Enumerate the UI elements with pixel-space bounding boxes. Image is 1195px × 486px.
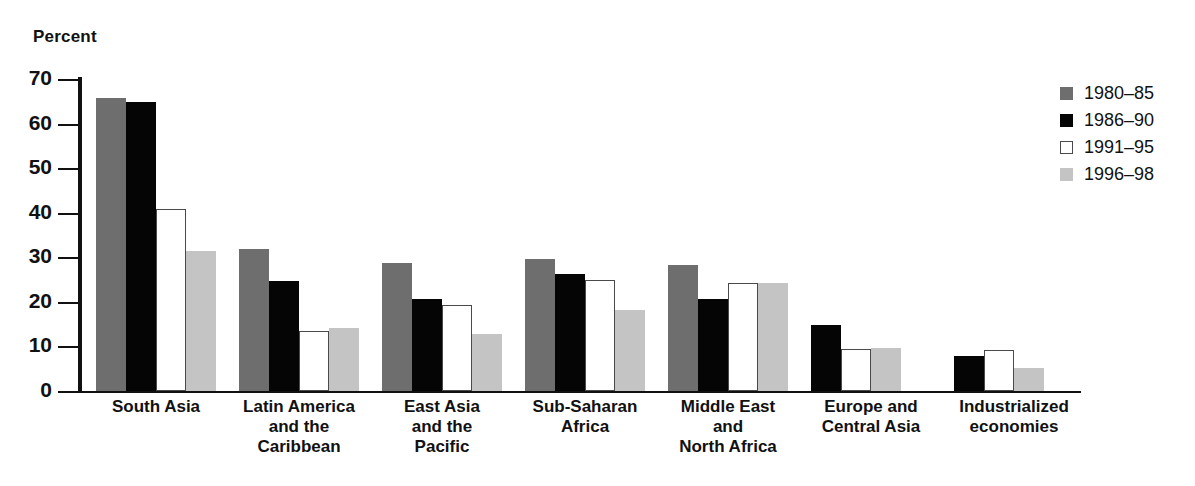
bar-group: Industrialized economies <box>954 79 1074 391</box>
bar-group-bars <box>239 79 359 391</box>
y-tick-label-70: 70 <box>6 66 52 90</box>
bar <box>442 305 472 391</box>
legend-label: 1986–90 <box>1084 110 1154 131</box>
bar <box>126 102 156 391</box>
bar-group-bars <box>382 79 502 391</box>
bar-group: East Asia and the Pacific <box>382 79 502 391</box>
bar-group: Europe and Central Asia <box>811 79 931 391</box>
chart-root: Percent 010203040506070 South AsiaLatin … <box>0 0 1195 486</box>
y-tick-10 <box>58 346 78 348</box>
bar-group-bars <box>811 79 931 391</box>
bar <box>1014 368 1044 391</box>
y-tick-20 <box>58 302 78 304</box>
bar <box>239 249 269 391</box>
bar <box>698 299 728 391</box>
legend-item: 1991–95 <box>1060 134 1154 161</box>
bar-group-bars <box>96 79 216 391</box>
bar <box>329 328 359 391</box>
bar <box>186 251 216 391</box>
bar-group: Sub-Saharan Africa <box>525 79 645 391</box>
bar-group-bars <box>525 79 645 391</box>
bar <box>96 98 126 391</box>
legend-swatch-icon <box>1060 168 1073 181</box>
bar <box>954 356 984 391</box>
legend-swatch-icon <box>1060 87 1073 100</box>
bar <box>728 283 758 391</box>
legend-label: 1996–98 <box>1084 164 1154 185</box>
bar <box>871 348 901 391</box>
legend-item: 1996–98 <box>1060 161 1154 188</box>
y-tick-label-10: 10 <box>6 333 52 357</box>
legend-swatch-icon <box>1060 141 1073 154</box>
bar <box>525 259 555 391</box>
y-tick-60 <box>58 124 78 126</box>
bar <box>668 265 698 391</box>
legend-label: 1991–95 <box>1084 137 1154 158</box>
y-tick-label-60: 60 <box>6 111 52 135</box>
bar <box>841 349 871 391</box>
chart-legend: 1980–851986–901991–951996–98 <box>1060 80 1154 188</box>
bar-group-bars <box>954 79 1074 391</box>
bar <box>585 280 615 391</box>
x-axis-group-label: Industrialized economies <box>899 397 1129 437</box>
bar <box>615 310 645 391</box>
y-tick-label-50: 50 <box>6 155 52 179</box>
legend-item: 1980–85 <box>1060 80 1154 107</box>
bar <box>472 334 502 391</box>
bar <box>412 299 442 391</box>
bar <box>156 209 186 391</box>
bar <box>758 283 788 391</box>
bar <box>984 350 1014 391</box>
legend-swatch-icon <box>1060 114 1073 127</box>
y-axis-title: Percent <box>33 27 97 47</box>
x-axis-line <box>78 391 1081 393</box>
bar-group: South Asia <box>96 79 216 391</box>
y-tick-label-40: 40 <box>6 200 52 224</box>
bar <box>811 325 841 391</box>
legend-label: 1980–85 <box>1084 83 1154 104</box>
y-tick-30 <box>58 257 78 259</box>
bar-group: Latin America and the Caribbean <box>239 79 359 391</box>
y-tick-40 <box>58 213 78 215</box>
bar <box>382 263 412 391</box>
y-tick-label-20: 20 <box>6 289 52 313</box>
bar-group-bars <box>668 79 788 391</box>
bar-group: Middle East and North Africa <box>668 79 788 391</box>
bar <box>299 331 329 391</box>
plot-area: 010203040506070 South AsiaLatin America … <box>88 79 1091 391</box>
y-tick-70 <box>58 79 78 81</box>
y-tick-label-30: 30 <box>6 244 52 268</box>
legend-item: 1986–90 <box>1060 107 1154 134</box>
bar <box>269 281 299 391</box>
y-axis-line <box>78 77 82 393</box>
y-tick-0 <box>58 391 78 393</box>
y-tick-50 <box>58 168 78 170</box>
bar <box>555 274 585 391</box>
